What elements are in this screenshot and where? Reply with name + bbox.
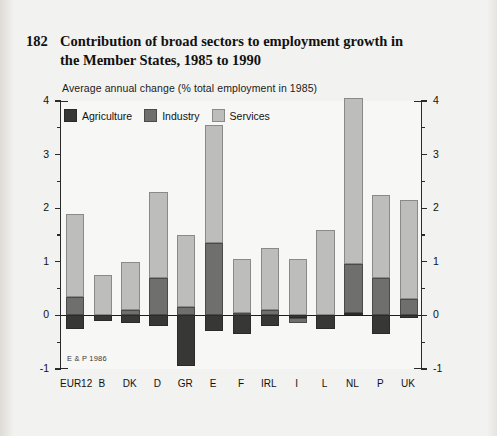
y-tick-right — [421, 127, 425, 128]
bar-segment-services[interactable] — [289, 259, 307, 315]
legend-label: Agriculture — [82, 110, 132, 122]
bar-group[interactable] — [372, 101, 390, 369]
y-tick-right — [421, 154, 427, 155]
legend-item-agriculture[interactable]: Agriculture — [64, 109, 132, 122]
bar-group[interactable] — [177, 101, 195, 369]
y-axis-label: 4 — [433, 94, 439, 106]
bar-group[interactable] — [205, 101, 223, 369]
bar-segment-agriculture[interactable] — [316, 315, 334, 328]
bar-group[interactable] — [121, 101, 139, 369]
y-tick-right — [421, 208, 427, 209]
plot-area: E & P 1986 — [60, 101, 422, 369]
bar-segment-industry[interactable] — [372, 278, 390, 316]
y-axis-label: -1 — [40, 362, 49, 374]
legend-swatch-agriculture-icon — [64, 109, 77, 122]
bar-segment-services[interactable] — [233, 259, 251, 313]
bar-segment-agriculture[interactable] — [149, 315, 167, 326]
x-axis-label-l: L — [311, 378, 339, 389]
bar-segment-services[interactable] — [205, 125, 223, 243]
legend-swatch-services-icon — [212, 109, 225, 122]
bar-group[interactable] — [66, 101, 84, 369]
figure-number: 182 — [26, 32, 60, 51]
bar-segment-services[interactable] — [400, 200, 418, 299]
bar-segment-industry[interactable] — [121, 310, 139, 315]
y-tick-right — [421, 342, 425, 343]
y-axis-label: 4 — [43, 94, 49, 106]
y-axis-label: 3 — [433, 148, 439, 160]
y-axis-label: -1 — [433, 362, 442, 374]
figure-heading: 182Contribution of broad sectors to empl… — [26, 32, 466, 70]
x-axis-label-uk: UK — [394, 378, 422, 389]
x-axis-label-p: P — [366, 378, 394, 389]
bar-segment-agriculture[interactable] — [344, 313, 362, 316]
bar-chart: E & P 1986 -1-10011223344 EUR12BDKDGREFI… — [60, 101, 422, 369]
bar-segment-agriculture[interactable] — [205, 315, 223, 331]
bar-segment-services[interactable] — [66, 214, 84, 297]
bar-segment-services[interactable] — [372, 195, 390, 278]
y-axis-label: 2 — [43, 201, 49, 213]
y-axis-label: 1 — [43, 255, 49, 267]
bar-segment-services[interactable] — [316, 230, 334, 316]
bar-segment-agriculture[interactable] — [261, 315, 279, 326]
bar-group[interactable] — [149, 101, 167, 369]
bar-segment-industry[interactable] — [66, 297, 84, 316]
y-tick-right — [421, 261, 427, 262]
bar-segment-agriculture[interactable] — [400, 315, 418, 318]
y-axis-label: 0 — [43, 308, 49, 320]
x-axis-label-nl: NL — [338, 378, 366, 389]
legend-swatch-industry-icon — [144, 109, 157, 122]
figure-title-line1: Contribution of broad sectors to employm… — [60, 33, 403, 49]
bar-segment-industry[interactable] — [149, 278, 167, 316]
y-axis-label: 3 — [43, 148, 49, 160]
bar-group[interactable] — [344, 101, 362, 369]
bar-group[interactable] — [316, 101, 334, 369]
bar-segment-services[interactable] — [149, 192, 167, 278]
bar-segment-agriculture[interactable] — [233, 315, 251, 334]
bar-series-container — [61, 101, 421, 369]
bar-segment-services[interactable] — [94, 275, 112, 315]
bar-segment-industry[interactable] — [177, 307, 195, 315]
y-tick-right — [421, 315, 427, 316]
y-axis-label: 0 — [433, 308, 439, 320]
bar-segment-services[interactable] — [344, 98, 362, 264]
bar-segment-services[interactable] — [177, 235, 195, 307]
bar-segment-industry[interactable] — [205, 243, 223, 315]
figure-title-line2: the Member States, 1985 to 1990 — [60, 51, 466, 70]
legend-label: Services — [230, 110, 270, 122]
bar-segment-services[interactable] — [261, 248, 279, 310]
bar-group[interactable] — [94, 101, 112, 369]
legend-item-industry[interactable]: Industry — [144, 109, 199, 122]
bar-segment-industry[interactable] — [233, 313, 251, 316]
bar-group[interactable] — [261, 101, 279, 369]
x-axis-label-gr: GR — [171, 378, 199, 389]
legend-item-services[interactable]: Services — [212, 109, 270, 122]
x-axis-label-d: D — [144, 378, 172, 389]
y-tick-right — [421, 181, 425, 182]
bar-segment-industry[interactable] — [344, 264, 362, 312]
legend-label: Industry — [162, 110, 199, 122]
bar-group[interactable] — [233, 101, 251, 369]
bar-segment-agriculture[interactable] — [94, 315, 112, 320]
y-tick-right — [421, 368, 427, 369]
bar-segment-industry[interactable] — [289, 318, 307, 323]
bar-segment-agriculture[interactable] — [372, 315, 390, 334]
x-axis-label-e: E — [199, 378, 227, 389]
bar-segment-agriculture[interactable] — [121, 315, 139, 323]
y-axis-label: 2 — [433, 201, 439, 213]
figure-subtitle: Average annual change (% total employmen… — [62, 82, 317, 94]
x-axis-label-eur12: EUR12 — [60, 378, 88, 389]
bar-segment-industry[interactable] — [261, 310, 279, 315]
y-tick-right — [421, 100, 427, 101]
figure-page: 182Contribution of broad sectors to empl… — [0, 0, 497, 436]
y-tick-right — [421, 288, 425, 289]
bar-segment-services[interactable] — [121, 262, 139, 310]
x-axis-label-f: F — [227, 378, 255, 389]
chart-legend: AgricultureIndustryServices — [64, 109, 270, 122]
bar-segment-agriculture[interactable] — [177, 315, 195, 366]
bar-group[interactable] — [289, 101, 307, 369]
y-axis-label: 1 — [433, 255, 439, 267]
source-note: E & P 1986 — [67, 354, 107, 363]
bar-segment-agriculture[interactable] — [66, 315, 84, 328]
bar-segment-industry[interactable] — [400, 299, 418, 315]
bar-group[interactable] — [400, 101, 418, 369]
